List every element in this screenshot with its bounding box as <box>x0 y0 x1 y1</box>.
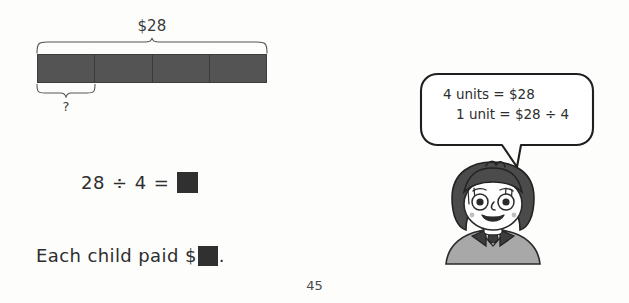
bar-unit <box>210 55 266 82</box>
equation-dividend: 28 <box>81 172 105 193</box>
unknown-unit-label: ? <box>47 99 85 114</box>
speech-bubble-line-2: 1 unit = $28 ÷ 4 <box>434 104 594 124</box>
sentence-answer-box[interactable] <box>198 246 218 266</box>
divide-icon: ÷ <box>112 172 128 193</box>
speech-bubble-text: 4 units = $28 1 unit = $28 ÷ 4 <box>434 84 594 124</box>
speech-bubble-line-1: 4 units = $28 <box>434 84 594 104</box>
bar-model-diagram: $28 ? <box>0 0 300 140</box>
equation-answer-box[interactable] <box>177 172 198 193</box>
child-illustration <box>428 160 558 270</box>
sentence-text-after: . <box>219 245 225 266</box>
bar-unit <box>153 55 210 82</box>
worksheet-page: $28 ? 28 ÷ 4 = Each child paid $ . 45 <box>0 0 629 303</box>
bar-unit <box>95 55 152 82</box>
bar-model-bar <box>37 54 267 83</box>
page-number: 45 <box>0 278 629 293</box>
answer-sentence: Each child paid $ . <box>36 245 225 266</box>
division-equation: 28 ÷ 4 = <box>81 172 198 193</box>
top-brace-icon <box>35 38 269 54</box>
bar-total-label: $28 <box>122 17 182 35</box>
bar-unit <box>38 55 95 82</box>
equation-divisor: 4 <box>135 172 147 193</box>
child-figure-icon <box>428 160 558 270</box>
bottom-brace-icon <box>35 84 97 98</box>
equals-icon: = <box>154 172 170 193</box>
sentence-text-before: Each child paid $ <box>36 245 197 266</box>
